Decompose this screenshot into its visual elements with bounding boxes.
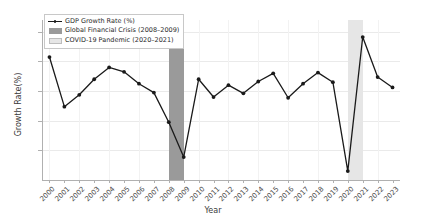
data-point [152, 91, 156, 95]
data-point [346, 169, 350, 173]
legend-label: Global Financial Crisis (2008–2009) [65, 26, 179, 35]
y-axis-spine [42, 20, 43, 180]
x-tick-mark [348, 180, 349, 183]
x-tick-mark [228, 180, 229, 183]
legend-label: COVID-19 Pandemic (2020–2021) [65, 36, 174, 45]
x-tick-mark [79, 180, 80, 183]
data-point [301, 82, 305, 86]
x-tick-mark [378, 180, 379, 183]
legend-line-marker-icon [48, 18, 62, 25]
x-tick-mark [303, 180, 304, 183]
x-tick-mark [169, 180, 170, 183]
x-tick-mark [199, 180, 200, 183]
data-point [167, 120, 171, 124]
legend-label: GDP Growth Rate (%) [65, 17, 135, 26]
x-tick-mark [363, 180, 364, 183]
x-tick-mark [64, 180, 65, 183]
gdp-growth-rate-chart: Growth Rate(%) 6420−2 200020012002200320… [0, 0, 426, 224]
x-tick-mark [288, 180, 289, 183]
data-point [77, 93, 81, 97]
x-tick-mark [258, 180, 259, 183]
y-tick-mark [38, 91, 42, 92]
data-point [182, 155, 186, 159]
data-point [316, 71, 320, 75]
data-point [122, 70, 126, 74]
y-tick-mark [38, 150, 42, 151]
data-point [227, 83, 231, 87]
y-axis-label: Growth Rate(%) [14, 45, 23, 165]
x-tick-mark [214, 180, 215, 183]
x-tick-mark [333, 180, 334, 183]
legend-swatch-gfc-icon [48, 28, 62, 35]
data-point [197, 77, 201, 81]
x-axis-spine [42, 180, 400, 181]
data-point [256, 80, 260, 84]
legend-item-covid-pandemic: COVID-19 Pandemic (2020–2021) [48, 36, 179, 45]
data-point [361, 35, 365, 39]
data-point [391, 86, 395, 90]
x-tick-mark [94, 180, 95, 183]
x-axis-label: Year [0, 206, 426, 215]
data-point [376, 75, 380, 79]
data-point [286, 96, 290, 100]
x-tick-mark [243, 180, 244, 183]
x-tick-mark [393, 180, 394, 183]
legend-item-gdp-growth-rate: GDP Growth Rate (%) [48, 17, 179, 26]
chart-legend: GDP Growth Rate (%) Global Financial Cri… [44, 14, 184, 49]
legend-item-global-financial-crisis: Global Financial Crisis (2008–2009) [48, 26, 179, 35]
data-point [331, 80, 335, 84]
data-point [92, 77, 96, 81]
data-point [137, 82, 141, 86]
x-tick-mark [273, 180, 274, 183]
y-tick-mark [38, 32, 42, 33]
data-point [241, 91, 245, 95]
series-path [49, 37, 392, 171]
x-tick-mark [124, 180, 125, 183]
y-tick-mark [38, 61, 42, 62]
x-tick-mark [139, 180, 140, 183]
x-tick-mark [49, 180, 50, 183]
data-point [271, 71, 275, 75]
x-tick-mark [184, 180, 185, 183]
legend-swatch-covid-icon [48, 37, 62, 44]
x-tick-mark [109, 180, 110, 183]
data-point [62, 105, 66, 109]
x-tick-mark [154, 180, 155, 183]
x-tick-mark [318, 180, 319, 183]
y-tick-mark [38, 121, 42, 122]
data-point [48, 55, 52, 59]
data-point [212, 95, 216, 99]
data-point [107, 66, 111, 70]
